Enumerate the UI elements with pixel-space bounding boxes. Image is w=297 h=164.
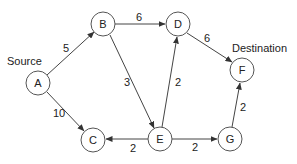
nodes: A B C D E F G xyxy=(26,12,254,152)
node-label-a: A xyxy=(34,77,42,89)
graph-diagram: 5 10 6 3 6 2 2 xyxy=(0,0,297,164)
edge-b-e: 3 xyxy=(110,35,154,128)
edge-weight-b-d: 6 xyxy=(136,11,142,23)
node-b: B xyxy=(91,12,115,36)
edge-weight-a-b: 5 xyxy=(63,42,69,54)
edge-e-g: 2 xyxy=(172,139,217,153)
node-d: D xyxy=(166,12,190,36)
node-label-g: G xyxy=(226,133,235,145)
edge-g-f: 2 xyxy=(232,83,246,127)
edge-weight-e-d: 2 xyxy=(175,76,181,88)
edge-b-d: 6 xyxy=(115,11,165,24)
source-annotation: Source xyxy=(7,55,42,67)
edge-weight-g-f: 2 xyxy=(240,101,246,113)
edge-weight-e-g: 2 xyxy=(192,141,198,153)
node-e: E xyxy=(148,127,172,151)
node-label-b: B xyxy=(99,18,106,30)
edge-a-c: 10 xyxy=(47,92,84,131)
edge-e-c: 2 xyxy=(106,139,148,154)
node-label-f: F xyxy=(239,64,246,76)
node-f: F xyxy=(230,58,254,82)
edge-a-b: 5 xyxy=(47,32,94,75)
edge-weight-a-c: 10 xyxy=(53,107,65,119)
node-label-e: E xyxy=(156,133,163,145)
node-a: A xyxy=(26,71,50,95)
edge-weight-b-e: 3 xyxy=(124,76,130,88)
node-c: C xyxy=(81,128,105,152)
node-label-d: D xyxy=(174,18,182,30)
node-g: G xyxy=(218,127,242,151)
edge-d-f: 6 xyxy=(187,32,232,62)
edge-e-d: 2 xyxy=(162,37,181,127)
edges: 5 10 6 3 6 2 2 xyxy=(47,11,246,154)
edge-weight-d-f: 6 xyxy=(204,32,210,44)
edge-weight-e-c: 2 xyxy=(130,142,136,154)
node-label-c: C xyxy=(89,134,97,146)
destination-annotation: Destination xyxy=(232,42,287,54)
